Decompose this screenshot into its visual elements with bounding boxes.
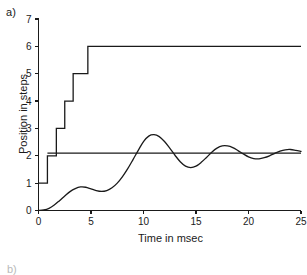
svg-text:25: 25 xyxy=(295,216,307,227)
svg-text:4: 4 xyxy=(26,96,32,107)
series-command-staircase xyxy=(39,46,302,183)
svg-text:7: 7 xyxy=(26,14,32,25)
x-axis-tick-labels: 0510152025 xyxy=(36,216,307,227)
panel-label-b: b) xyxy=(7,263,17,275)
series-damped-response xyxy=(39,135,302,211)
svg-text:10: 10 xyxy=(138,216,150,227)
svg-text:6: 6 xyxy=(26,41,32,52)
svg-text:5: 5 xyxy=(26,68,32,79)
svg-text:20: 20 xyxy=(243,216,255,227)
svg-text:15: 15 xyxy=(190,216,202,227)
svg-text:1: 1 xyxy=(26,178,32,189)
svg-text:0: 0 xyxy=(36,216,42,227)
svg-text:0: 0 xyxy=(26,205,32,216)
svg-text:5: 5 xyxy=(88,216,94,227)
svg-text:2: 2 xyxy=(26,150,32,161)
y-axis-tick-labels: 01234567 xyxy=(26,14,32,217)
svg-text:3: 3 xyxy=(26,123,32,134)
